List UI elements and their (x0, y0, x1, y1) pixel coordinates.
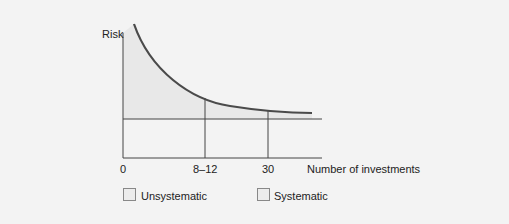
y-axis-label: Risk (102, 28, 123, 40)
legend-swatch-unsystematic (123, 188, 136, 201)
risk-diversification-chart (0, 0, 509, 224)
legend-label-unsystematic: Unsystematic (141, 190, 207, 202)
x-tick-30: 30 (262, 163, 274, 175)
unsystematic-area (123, 24, 312, 119)
legend-swatch-systematic (257, 188, 270, 201)
x-tick-8-12: 8–12 (193, 163, 217, 175)
legend-label-systematic: Systematic (274, 190, 328, 202)
x-tick-0: 0 (120, 163, 126, 175)
x-axis-label: Number of investments (307, 163, 420, 175)
diagram-panel: Risk 0 8–12 30 Number of investments Uns… (0, 0, 509, 224)
